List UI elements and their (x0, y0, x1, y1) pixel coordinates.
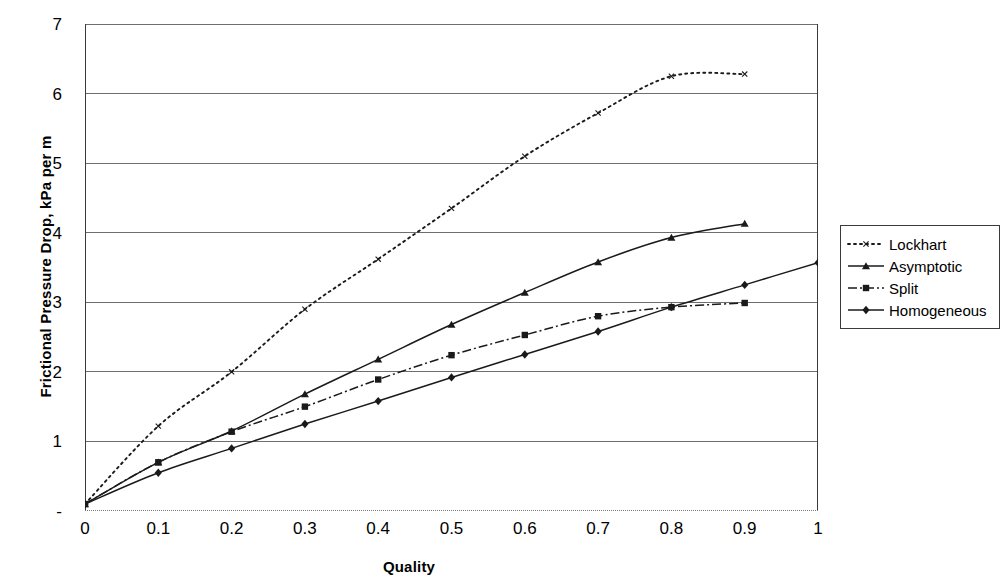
marker-diamond (595, 327, 602, 335)
y-axis-tick-labels: -1234567 (22, 0, 62, 587)
x-axis-tick-label: 0.5 (432, 519, 472, 539)
marker-diamond (814, 258, 818, 266)
marker-square (448, 352, 454, 358)
legend-item-lockhart[interactable]: Lockhart (847, 233, 993, 255)
legend-item-homogeneous[interactable]: Homogeneous (847, 299, 993, 321)
y-axis-tick-label: 3 (22, 294, 62, 311)
x-axis-tick-label: 0.8 (651, 519, 691, 539)
y-axis-tick-label: 6 (22, 85, 62, 102)
legend-label: Asymptotic (885, 258, 962, 275)
legend-label: Lockhart (885, 236, 947, 253)
marker-triangle (521, 289, 529, 296)
marker-square (863, 285, 869, 291)
y-axis-tick-label: 1 (22, 433, 62, 450)
legend-marker-x-icon (847, 237, 885, 251)
marker-diamond (228, 444, 235, 452)
legend-marker-square-icon (847, 281, 885, 295)
x-axis-tick-label: 0.7 (578, 519, 618, 539)
y-axis-tick-label: 5 (22, 155, 62, 172)
marker-diamond (155, 469, 162, 477)
x-axis-title: Quality (0, 558, 818, 575)
x-axis-tick-label: 1 (798, 519, 838, 539)
x-axis-tick-label: 0.3 (285, 519, 325, 539)
y-axis-tick-label: - (22, 503, 62, 520)
x-axis-tick-label: 0.9 (725, 519, 765, 539)
plot-svg (85, 24, 818, 511)
marker-square (375, 376, 381, 382)
series-line (85, 303, 745, 504)
marker-diamond (521, 350, 528, 358)
y-axis-tick-label: 4 (22, 224, 62, 241)
marker-x (742, 71, 747, 76)
marker-diamond (301, 420, 308, 428)
marker-square (522, 332, 528, 338)
legend-marker-triangle-icon (847, 259, 885, 273)
y-axis-tick-label: 7 (22, 16, 62, 33)
series-homogeneous (85, 258, 818, 508)
legend-item-split[interactable]: Split (847, 277, 993, 299)
marker-triangle (301, 390, 309, 397)
marker-triangle (374, 356, 382, 363)
x-axis-tick-label: 0.2 (212, 519, 252, 539)
marker-diamond (448, 373, 455, 381)
series-line (85, 263, 818, 504)
legend: LockhartAsymptoticSplitHomogeneous (840, 225, 1000, 329)
marker-square (155, 459, 161, 465)
marker-square (742, 300, 748, 306)
plot-area (85, 24, 818, 511)
x-axis-tick-label: 0.6 (505, 519, 545, 539)
marker-x (302, 307, 307, 312)
chart-figure: Frictional Pressure Drop, kPa per m -123… (0, 0, 1008, 587)
legend-label: Homogeneous (885, 302, 987, 319)
marker-diamond (741, 281, 748, 289)
marker-x (156, 424, 161, 429)
marker-triangle (741, 220, 749, 227)
marker-diamond (375, 397, 382, 405)
x-axis-tick-label: 0.4 (358, 519, 398, 539)
y-axis-tick-label: 2 (22, 363, 62, 380)
series-line (85, 224, 745, 504)
marker-diamond (862, 306, 869, 314)
marker-triangle (448, 321, 456, 328)
marker-x (449, 206, 454, 211)
marker-square (228, 428, 234, 434)
legend-item-asymptotic[interactable]: Asymptotic (847, 255, 993, 277)
marker-square (302, 403, 308, 409)
series-split (85, 300, 748, 507)
marker-square (595, 313, 601, 319)
legend-label: Split (885, 280, 918, 297)
x-axis-tick-label: 0 (65, 519, 105, 539)
series-line (85, 73, 745, 504)
legend-marker-diamond-icon (847, 303, 885, 317)
marker-x (522, 154, 527, 159)
x-axis-tick-label: 0.1 (138, 519, 178, 539)
marker-x (376, 257, 381, 262)
